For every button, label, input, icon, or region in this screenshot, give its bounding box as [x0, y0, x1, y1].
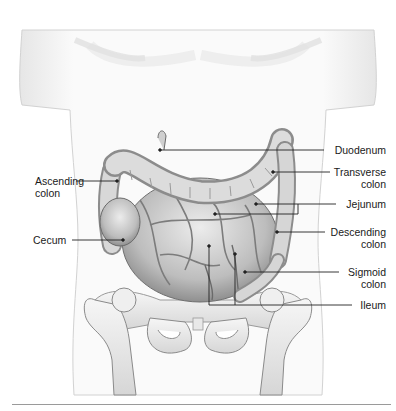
intestine-illustration — [0, 0, 396, 411]
anatomy-figure: Ascending colon Cecum Duodenum Transvers… — [0, 0, 396, 411]
label-ascending-colon: Ascending colon — [35, 175, 84, 199]
label-line: Transverse — [334, 166, 386, 178]
label-line: Descending — [331, 226, 386, 238]
label-line: Ileum — [360, 299, 386, 311]
label-line: Ascending — [35, 175, 84, 187]
bottom-rule — [12, 404, 391, 405]
label-line: colon — [331, 238, 386, 250]
label-duodenum: Duodenum — [335, 144, 386, 156]
label-line: Sigmoid — [348, 266, 386, 278]
label-transverse-colon: Transverse colon — [334, 166, 386, 190]
label-line: colon — [334, 178, 386, 190]
label-line: Cecum — [33, 234, 66, 246]
label-cecum: Cecum — [33, 234, 66, 246]
label-line: colon — [348, 278, 386, 290]
label-line: Duodenum — [335, 144, 386, 156]
label-sigmoid-colon: Sigmoid colon — [348, 266, 386, 290]
label-ileum: Ileum — [360, 299, 386, 311]
label-jejunum: Jejunum — [346, 198, 386, 210]
label-line: Jejunum — [346, 198, 386, 210]
label-descending-colon: Descending colon — [331, 226, 386, 250]
label-line: colon — [35, 187, 84, 199]
